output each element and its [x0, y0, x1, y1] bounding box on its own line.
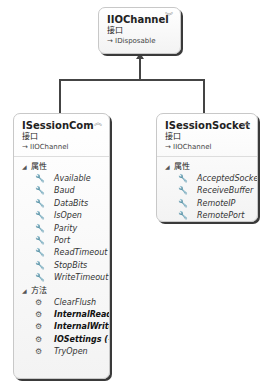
property-item[interactable]: 🔧RemotePort — [157, 210, 257, 222]
wrench-icon: 🔧 — [178, 185, 190, 197]
wrench-icon: 🔧 — [35, 260, 47, 272]
wrench-icon: 🔧 — [178, 198, 190, 210]
gear-icon: ⚙ — [35, 321, 47, 333]
iiochannel-stereotype: 接口 — [107, 26, 172, 36]
property-item[interactable]: 🔧ReceiveBuffer — [157, 185, 257, 197]
method-item[interactable]: ⚙ClearFlush — [14, 297, 109, 309]
wrench-icon: 🔧 — [35, 223, 47, 235]
property-item[interactable]: 🔧ReadTimeout — [14, 247, 109, 259]
gear-icon: ⚙ — [35, 334, 47, 346]
inheritance-line-horizontal — [59, 79, 204, 81]
properties-section-header[interactable]: ◢属性 — [157, 161, 257, 173]
property-item[interactable]: 🔧WriteTimeout — [14, 272, 109, 284]
method-item[interactable]: ⚙InternalRead (+... — [14, 309, 109, 321]
gear-icon: ⚙ — [35, 297, 47, 309]
property-item[interactable]: 🔧StopBits — [14, 260, 109, 272]
section-toggle-icon: ◢ — [165, 163, 170, 170]
wrench-icon: 🔧 — [35, 272, 47, 284]
wrench-icon: 🔧 — [35, 198, 47, 210]
isessionsocket-box[interactable]: ISessionSocket 接口 → IIOChannel ︽ ◢属性 🔧Ac… — [156, 113, 258, 222]
wrench-icon: 🔧 — [35, 210, 47, 222]
property-item[interactable]: 🔧DataBits — [14, 198, 109, 210]
property-item[interactable]: 🔧Available — [14, 173, 109, 185]
property-item[interactable]: 🔧IsOpen — [14, 210, 109, 222]
method-item[interactable]: ⚙InternalWrite (... — [14, 321, 109, 333]
wrench-icon: 🔧 — [178, 210, 190, 222]
expand-chevron-icon[interactable]: ︾ — [165, 13, 173, 21]
method-item[interactable]: ⚙IOSettings (+ 1 ... — [14, 334, 109, 346]
section-toggle-icon: ◢ — [22, 287, 27, 294]
isessioncom-base: → IIOChannel — [22, 142, 101, 152]
wrench-icon: 🔧 — [35, 185, 47, 197]
gear-icon: ⚙ — [35, 346, 47, 358]
isessioncom-title: ISessionCom — [22, 120, 101, 132]
isessioncom-stereotype: 接口 — [22, 132, 101, 142]
wrench-icon: 🔧 — [178, 173, 190, 185]
iiochannel-box[interactable]: IIOChannel 接口 → IDisposable ︾ — [98, 7, 181, 54]
wrench-icon: 🔧 — [35, 235, 47, 247]
wrench-icon: 🔧 — [35, 173, 47, 185]
inheritance-line-left — [59, 79, 61, 113]
gear-icon: ⚙ — [35, 309, 47, 321]
methods-section-header[interactable]: ◢方法 — [14, 285, 109, 297]
property-item[interactable]: 🔧RemoteIP — [157, 198, 257, 210]
iiochannel-title: IIOChannel — [107, 14, 172, 26]
property-item[interactable]: 🔧Port — [14, 235, 109, 247]
collapse-chevron-icon[interactable]: ︽ — [94, 119, 102, 127]
method-item[interactable]: ⚙TryOpen — [14, 346, 109, 358]
property-item[interactable]: 🔧Parity — [14, 223, 109, 235]
collapse-chevron-icon[interactable]: ︽ — [242, 119, 250, 127]
inheritance-line-right — [203, 79, 205, 113]
property-item[interactable]: 🔧Baud — [14, 185, 109, 197]
property-item[interactable]: 🔧AcceptedSocket — [157, 173, 257, 185]
wrench-icon: 🔧 — [35, 247, 47, 259]
isessionsocket-base: → IIOChannel — [165, 142, 249, 152]
isessioncom-box[interactable]: ISessionCom 接口 → IIOChannel ︽ ◢属性 🔧Avail… — [13, 113, 110, 379]
isessionsocket-title: ISessionSocket — [165, 120, 249, 132]
properties-section-header[interactable]: ◢属性 — [14, 161, 109, 173]
section-toggle-icon: ◢ — [22, 163, 27, 170]
iiochannel-base: → IDisposable — [107, 36, 172, 46]
isessionsocket-stereotype: 接口 — [165, 132, 249, 142]
inheritance-line-vertical — [139, 58, 141, 80]
